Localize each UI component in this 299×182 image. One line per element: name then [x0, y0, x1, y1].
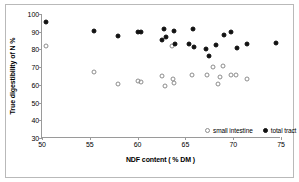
x-tick-label: 50: [38, 141, 46, 148]
data-point-total-tract: [229, 30, 234, 35]
plot-area: 30405060708090100 505560657075 small int…: [41, 14, 280, 138]
data-point-small-intestine: [163, 84, 168, 89]
data-point-small-intestine: [220, 64, 225, 69]
legend-label: small intestine: [213, 127, 253, 134]
data-point-total-tract: [274, 41, 279, 46]
data-point-small-intestine: [171, 80, 176, 85]
y-tick-mark: [39, 49, 42, 50]
y-tick-mark: [39, 32, 42, 33]
y-tick-mark: [39, 85, 42, 86]
data-point-total-tract: [91, 29, 96, 34]
data-point-total-tract: [43, 19, 48, 24]
data-point-small-intestine: [190, 73, 195, 78]
y-tick-mark: [39, 14, 42, 15]
data-point-total-tract: [139, 30, 144, 35]
x-tick-mark: [281, 137, 282, 140]
data-point-total-tract: [221, 32, 226, 37]
x-tick-label: 75: [277, 141, 285, 148]
y-tick-label: 90: [31, 28, 39, 35]
y-tick-label: 40: [31, 117, 39, 124]
y-tick-label: 60: [31, 81, 39, 88]
data-point-total-tract: [116, 34, 121, 39]
x-tick-mark: [42, 137, 43, 140]
data-point-small-intestine: [205, 73, 210, 78]
chart-legend: small intestinetotal tract: [205, 127, 296, 134]
data-point-small-intestine: [116, 81, 121, 86]
data-point-small-intestine: [43, 43, 48, 48]
y-tick-mark: [39, 103, 42, 104]
legend-entry: small intestine: [205, 127, 253, 134]
x-tick-label: 60: [134, 141, 142, 148]
data-point-small-intestine: [139, 80, 144, 85]
data-point-total-tract: [244, 41, 249, 46]
data-point-total-tract: [171, 29, 176, 34]
y-tick-mark: [39, 120, 42, 121]
data-point-total-tract: [192, 45, 197, 50]
data-point-small-intestine: [215, 81, 220, 86]
data-point-small-intestine: [159, 73, 164, 78]
x-tick-mark: [138, 137, 139, 140]
x-tick-label: 70: [229, 141, 237, 148]
x-tick-mark: [90, 137, 91, 140]
x-axis-title: NDF content ( % DM ): [41, 156, 280, 163]
data-point-total-tract: [213, 43, 218, 48]
data-point-small-intestine: [91, 69, 96, 74]
y-tick-label: 50: [31, 99, 39, 106]
filled-circle-icon: [263, 128, 268, 133]
y-axis-title: True digestibility of N %: [7, 14, 18, 138]
data-point-total-tract: [235, 46, 240, 51]
data-point-total-tract: [207, 53, 212, 58]
legend-label: total tract: [271, 127, 297, 134]
open-circle-icon: [205, 128, 210, 133]
scatter-chart-figure: True digestibility of N % 30405060708090…: [0, 0, 299, 182]
x-tick-label: 55: [86, 141, 94, 148]
x-tick-label: 65: [182, 141, 190, 148]
data-point-small-intestine: [217, 74, 222, 79]
y-tick-mark: [39, 67, 42, 68]
data-point-total-tract: [162, 27, 167, 32]
legend-entry: total tract: [263, 127, 297, 134]
y-tick-label: 70: [31, 64, 39, 71]
y-tick-label: 80: [31, 46, 39, 53]
data-point-small-intestine: [244, 76, 249, 81]
data-point-small-intestine: [234, 73, 239, 78]
data-point-total-tract: [204, 46, 209, 51]
data-point-total-tract: [172, 41, 177, 46]
data-point-total-tract: [164, 34, 169, 39]
x-tick-mark: [233, 137, 234, 140]
x-tick-mark: [185, 137, 186, 140]
data-point-total-tract: [191, 27, 196, 32]
y-tick-label: 100: [28, 11, 39, 18]
data-point-small-intestine: [211, 65, 216, 70]
